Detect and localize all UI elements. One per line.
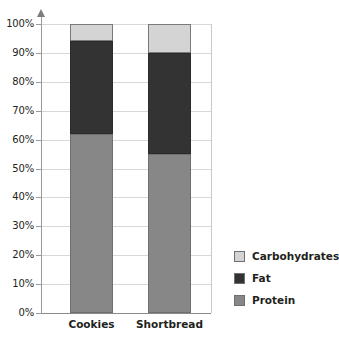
axis-baseline [42, 313, 211, 314]
y-axis-tick-label: 80% [0, 77, 34, 87]
bar-shortbread[interactable] [148, 24, 191, 313]
bar-segment-carbohydrates[interactable] [70, 24, 113, 41]
bar-segment-protein[interactable] [70, 134, 113, 313]
y-axis-tick-label: 30% [0, 221, 34, 231]
x-axis-label-shortbread: Shortbread [120, 318, 220, 330]
y-axis-tick-labels: 0%10%20%30%40%50%60%70%80%90%100% [0, 0, 34, 337]
y-axis-tick-label: 100% [0, 19, 34, 29]
y-axis-tick-label: 60% [0, 135, 34, 145]
axis-arrow-up-icon [37, 9, 45, 17]
y-axis-tick-label: 70% [0, 106, 34, 116]
bar-segment-carbohydrates[interactable] [148, 24, 191, 53]
bar-segment-protein[interactable] [148, 154, 191, 313]
legend-item-carbohydrates[interactable]: Carbohydrates [234, 245, 339, 267]
legend-swatch-fat-icon [234, 273, 245, 284]
legend-swatch-protein-icon [234, 295, 245, 306]
legend-item-protein[interactable]: Protein [234, 289, 339, 311]
legend-item-fat[interactable]: Fat [234, 267, 339, 289]
y-axis-tick-label: 90% [0, 48, 34, 58]
bar-cookies[interactable] [70, 24, 113, 313]
chart-legend: CarbohydratesFatProtein [234, 245, 339, 311]
y-axis-tick-label: 20% [0, 250, 34, 260]
y-axis-tick-label: 10% [0, 279, 34, 289]
y-axis-tick-label: 40% [0, 192, 34, 202]
plot-area [42, 24, 212, 313]
legend-label: Carbohydrates [252, 251, 339, 262]
legend-label: Protein [252, 295, 295, 306]
legend-label: Fat [252, 273, 271, 284]
bar-segment-fat[interactable] [70, 41, 113, 133]
y-axis-tick-label: 50% [0, 164, 34, 174]
y-axis-tick-label: 0% [0, 308, 34, 318]
legend-swatch-carbohydrates-icon [234, 251, 245, 262]
bar-segment-fat[interactable] [148, 53, 191, 154]
